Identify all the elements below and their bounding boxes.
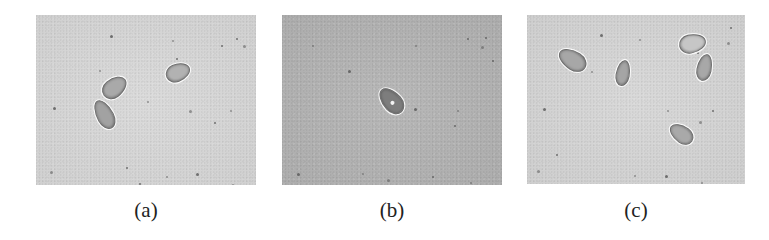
debris-speck: [600, 34, 603, 37]
debris-speck: [236, 38, 238, 40]
figure: (a) (b) (c): [0, 0, 769, 240]
cell-vacuole: [390, 100, 396, 106]
debris-speck: [312, 45, 314, 47]
debris-speck: [665, 175, 668, 178]
debris-speck: [196, 173, 199, 176]
debris-speck: [485, 37, 487, 39]
debris-speck: [147, 101, 149, 103]
debris-speck: [556, 154, 558, 156]
debris-speck: [639, 39, 641, 41]
debris-speck: [214, 122, 216, 124]
debris-speck: [454, 125, 456, 127]
debris-speck: [481, 46, 484, 49]
debris-speck: [297, 173, 300, 176]
debris-speck: [457, 110, 459, 112]
debris-speck: [712, 110, 714, 112]
debris-speck: [492, 60, 494, 62]
debris-speck: [432, 176, 434, 178]
debris-speck: [387, 179, 390, 182]
debris-speck: [362, 173, 364, 175]
debris-speck: [232, 184, 234, 185]
debris-speck: [50, 171, 53, 174]
debris-speck: [53, 107, 56, 110]
debris-speck: [699, 121, 702, 124]
debris-speck: [701, 182, 703, 184]
debris-speck: [667, 110, 669, 112]
debris-speck: [230, 110, 232, 112]
micrograph-c-shading: [527, 15, 745, 184]
debris-speck: [730, 27, 732, 29]
panel-c: [527, 15, 745, 184]
debris-speck: [348, 70, 351, 73]
debris-speck: [166, 176, 168, 178]
debris-speck: [189, 110, 192, 113]
debris-speck: [634, 175, 636, 177]
debris-speck: [126, 167, 128, 169]
debris-speck: [537, 170, 540, 173]
debris-speck: [221, 45, 223, 47]
micrograph-a-shading: [36, 15, 256, 185]
debris-speck: [176, 58, 178, 60]
debris-speck: [697, 52, 699, 54]
debris-speck: [591, 71, 593, 73]
debris-speck: [467, 38, 469, 40]
panel-a-label: (a): [116, 198, 176, 222]
debris-speck: [470, 182, 472, 184]
debris-speck: [543, 108, 546, 111]
debris-speck: [727, 42, 730, 45]
panel-a: [36, 15, 256, 185]
debris-speck: [415, 45, 417, 47]
debris-speck: [139, 183, 141, 185]
debris-speck: [110, 35, 113, 38]
debris-speck: [99, 70, 101, 72]
panel-c-label: (c): [606, 198, 666, 222]
panel-b: [282, 15, 502, 185]
debris-speck: [172, 40, 174, 42]
debris-speck: [243, 45, 246, 48]
panel-b-label: (b): [362, 198, 422, 222]
debris-speck: [414, 108, 417, 111]
